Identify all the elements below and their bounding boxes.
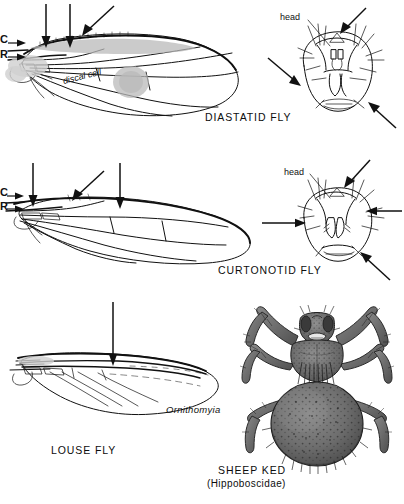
- louse-fly-wing-drawing: [10, 330, 235, 440]
- caption-curtonotid-fly: CURTONOTID FLY: [218, 264, 322, 276]
- caption-sheep-ked-family: (Hippoboscidae): [207, 478, 286, 489]
- arrow-head-bristle-3: [362, 100, 400, 132]
- arrow-costal-section-3: [76, 4, 118, 44]
- arrow-costa-pointer-2: [7, 191, 27, 201]
- arrow-curtonotid-costa-1: [25, 163, 41, 211]
- label-head-curtonotid: head: [284, 167, 304, 177]
- figure-diastatid-head: head: [286, 14, 396, 126]
- leader-head-1: [306, 16, 336, 50]
- figure-sheep-ked: [238, 302, 396, 470]
- arrow-curtonotid-head-3: [354, 250, 394, 284]
- label-costa-diastatid: C: [0, 33, 8, 45]
- arrow-louse-fly-vein: [106, 302, 120, 368]
- arrow-curtonotid-head-4: [364, 204, 404, 218]
- caption-sheep-ked: SHEEP KED: [218, 464, 286, 476]
- arrow-head-bristle-1: [332, 6, 372, 46]
- caption-diastatid-fly: DIASTATID FLY: [205, 111, 291, 123]
- label-radius-diastatid: R: [0, 48, 8, 60]
- figure-louse-fly-wing: Ornithomyia: [10, 330, 235, 440]
- label-ornithomyia: Ornithomyia: [166, 404, 221, 415]
- arrow-costa-pointer: [8, 38, 30, 48]
- label-radius-curtonotid: R: [0, 200, 8, 212]
- figure-diastatid-wing: C R discal cell: [0, 8, 250, 128]
- arrow-curtonotid-head-2: [262, 216, 314, 230]
- sheep-ked-drawing: [238, 302, 396, 470]
- arrow-radius-pointer: [8, 52, 30, 62]
- label-head-diastatid: head: [280, 12, 300, 22]
- arrow-curtonotid-head-1: [336, 158, 376, 200]
- leader-head-2: [308, 172, 336, 202]
- caption-louse-fly: LOUSE FLY: [51, 444, 116, 456]
- arrow-curtonotid-costa-3: [64, 169, 108, 209]
- arrow-curtonotid-costa-2: [112, 163, 128, 213]
- arrow-radius-pointer-2: [7, 204, 27, 214]
- arrow-costal-section-1: [38, 4, 54, 50]
- figure-curtonotid-head: head: [288, 168, 396, 276]
- label-costa-curtonotid: C: [0, 186, 8, 198]
- arrow-head-bristle-2: [268, 56, 314, 92]
